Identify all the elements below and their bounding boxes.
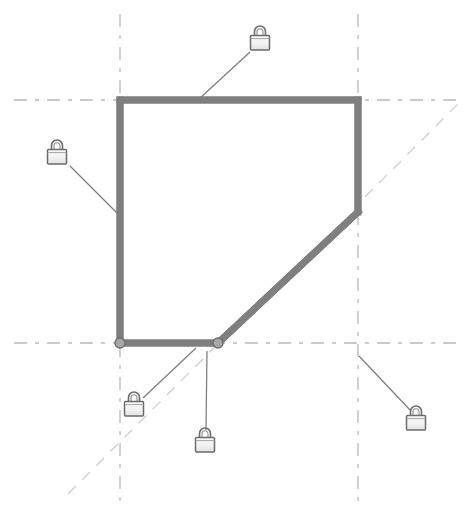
- leader-line-lock-left-edge: [70, 166, 121, 217]
- profile-layer: [120, 100, 358, 343]
- leader-line-lock-bottom-edge: [206, 351, 207, 430]
- leader-line-lock-top-edge: [199, 52, 250, 99]
- sketch-canvas[interactable]: [0, 0, 474, 520]
- vertex-node-chamfer[interactable]: [213, 338, 223, 348]
- sketch-drawing-area[interactable]: [0, 0, 474, 520]
- lock-icon[interactable]: [251, 26, 270, 50]
- lock-constraint-left-edge[interactable]: [48, 140, 67, 164]
- lock-icon[interactable]: [48, 140, 67, 164]
- lock-icon[interactable]: [125, 392, 144, 416]
- leader-line-lock-right-axis: [359, 356, 410, 410]
- leader-line-lock-bottom-left-node: [143, 348, 196, 398]
- lock-constraint-top-edge[interactable]: [251, 26, 270, 50]
- lock-constraint-bottom-edge[interactable]: [196, 428, 215, 452]
- lock-icon[interactable]: [196, 428, 215, 452]
- vertex-node-bottom-left[interactable]: [115, 338, 125, 348]
- lock-constraint-bottom-left-node[interactable]: [125, 392, 144, 416]
- closed-profile-polygon[interactable]: [120, 100, 358, 343]
